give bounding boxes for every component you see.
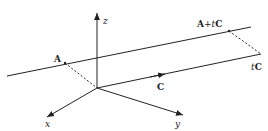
x-axis: [47, 88, 97, 117]
vector-c-arrow: [150, 74, 165, 77]
line-parametrization-diagram: z x y A A+tC tC C: [0, 0, 268, 131]
dashed-a: [65, 63, 97, 88]
dashed-tc: [229, 31, 261, 54]
point-a: [64, 62, 66, 64]
x-label: x: [45, 119, 50, 129]
z-label: z: [102, 16, 108, 26]
line-tc: [97, 54, 261, 88]
y-axis: [97, 88, 183, 115]
a-plus-tc-label: A+tC: [196, 19, 222, 29]
a-label: A: [53, 54, 62, 64]
y-label: y: [174, 119, 181, 129]
c-label: C: [157, 82, 164, 92]
line-a-plus-tc: [7, 27, 251, 76]
point-a-plus-tc: [228, 30, 230, 32]
tc-label: tC: [251, 62, 262, 72]
